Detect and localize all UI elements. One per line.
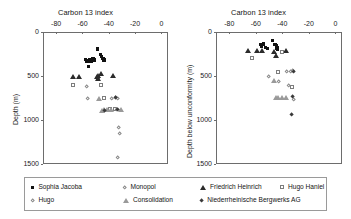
- legend-item: Monopol: [123, 184, 156, 191]
- data-point: [96, 47, 99, 50]
- legend-item-label: Hugo: [38, 197, 54, 204]
- x-tick-mark: [82, 32, 83, 34]
- data-point: [283, 95, 289, 100]
- data-point: [245, 48, 251, 53]
- x-tick-label: -60: [242, 20, 270, 27]
- data-point: [99, 83, 103, 87]
- x-tick-label: -20: [295, 20, 323, 27]
- data-point: [87, 65, 90, 68]
- x-tick-mark: [56, 32, 57, 34]
- legend-item-label: Consolidation: [133, 197, 173, 204]
- legend-item: Hugo: [31, 197, 54, 204]
- x-tick-label: -80: [42, 20, 70, 27]
- legend-item-label: Niederrheinische Bergwerks AG: [207, 197, 300, 204]
- data-point: [76, 74, 82, 79]
- legend-marker-icon: [123, 198, 129, 203]
- legend-marker-icon: [200, 185, 206, 190]
- x-tick-mark: [135, 32, 136, 34]
- x-tick-label: -60: [68, 20, 96, 27]
- y-axis-title-left: Depth (m): [12, 94, 19, 125]
- legend-item-label: Hugo Haniel: [288, 184, 324, 191]
- x-tick-label: -40: [95, 20, 123, 27]
- chart-legend: Sophia JacobaHugoMonopolConsolidationFri…: [24, 177, 327, 211]
- x-tick-mark: [109, 32, 110, 34]
- legend-item: Niederrheinische Bergwerks AG: [200, 197, 301, 204]
- figure-container: Carbon 13 index -80-60-40-200 0500100015…: [0, 0, 351, 219]
- data-point: [276, 70, 280, 74]
- y-tick-mark: [41, 120, 43, 121]
- panel-right-title: Carbon 13 index: [231, 8, 286, 17]
- x-tick-mark: [229, 32, 230, 34]
- legend-marker-icon: [122, 185, 127, 190]
- legend-item-label: Sophia Jacoba: [38, 184, 82, 191]
- data-point: [93, 58, 96, 61]
- data-point: [266, 47, 269, 50]
- chart-panel-right: Carbon 13 index -80-60-40-200 0500100015…: [176, 0, 351, 175]
- data-point: [102, 96, 106, 100]
- y-tick-label: 1500: [11, 160, 39, 167]
- data-point: [110, 73, 116, 78]
- y-tick-mark: [41, 164, 43, 165]
- chart-panel-left: Carbon 13 index -80-60-40-200 0500100015…: [0, 0, 176, 175]
- x-tick-mark: [256, 32, 257, 34]
- data-point: [259, 48, 265, 53]
- legend-item: Friedrich Heinrich: [200, 184, 262, 191]
- data-point: [250, 56, 254, 60]
- x-tick-mark: [282, 32, 283, 34]
- x-tick-label: -20: [121, 20, 149, 27]
- panel-left-title: Carbon 13 index: [58, 8, 113, 17]
- y-tick-label: 0: [11, 28, 39, 35]
- x-tick-mark: [335, 32, 336, 34]
- x-tick-label: 0: [321, 20, 349, 27]
- y-axis-title-right: Depth below unconformity (m): [186, 65, 193, 158]
- data-point: [71, 83, 75, 87]
- y-tick-label: 1500: [184, 160, 212, 167]
- legend-marker-icon: [280, 185, 284, 189]
- x-tick-label: 0: [147, 20, 175, 27]
- data-point: [273, 53, 279, 58]
- data-point: [108, 107, 114, 112]
- y-tick-label: 0: [184, 28, 212, 35]
- data-point: [96, 96, 102, 101]
- data-point: [95, 76, 101, 81]
- data-point: [280, 50, 284, 54]
- y-tick-mark: [41, 32, 43, 33]
- legend-marker-icon: [31, 186, 34, 189]
- legend-marker-icon: [199, 198, 204, 203]
- y-tick-mark: [41, 76, 43, 77]
- x-tick-mark: [309, 32, 310, 34]
- x-tick-label: -80: [215, 20, 243, 27]
- x-tick-mark: [161, 32, 162, 34]
- legend-item: Consolidation: [123, 197, 173, 204]
- legend-item: Sophia Jacoba: [31, 184, 82, 191]
- data-point: [271, 78, 277, 83]
- data-point: [102, 58, 105, 61]
- data-point: [271, 39, 274, 42]
- y-tick-mark: [214, 32, 216, 33]
- legend-item-label: Friedrich Heinrich: [210, 184, 262, 191]
- y-tick-mark: [214, 76, 216, 77]
- y-tick-label: 500: [11, 72, 39, 79]
- y-tick-mark: [214, 164, 216, 165]
- legend-item: Hugo Haniel: [280, 184, 324, 191]
- x-tick-label: -40: [268, 20, 296, 27]
- legend-item-label: Monopol: [130, 184, 155, 191]
- y-tick-mark: [214, 120, 216, 121]
- legend-marker-icon: [30, 198, 35, 203]
